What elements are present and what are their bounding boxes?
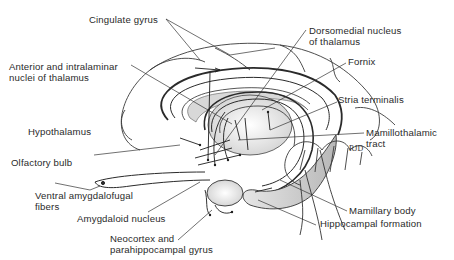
olfactory-tract <box>95 172 210 188</box>
label-dorsomedial-line1: Dorsomedial nucleus <box>309 25 401 36</box>
label-stria-terminalis: Stria terminalis <box>338 94 404 105</box>
label-ventral-amygdalofugal-line1: Ventral amygdalofugal <box>35 190 133 201</box>
label-mamillothalamic-line2: tract <box>366 138 437 149</box>
amygdala-knob <box>207 180 243 206</box>
label-neocortex-parahippocampal-gyrus: Neocortex and parahippocampal gyrus <box>110 233 213 255</box>
label-mamillothalamic-tract: Mamillothalamic tract <box>366 127 437 149</box>
label-dorsomedial-line2: of thalamus <box>309 36 401 47</box>
label-mamillothalamic-line1: Mamillothalamic <box>366 127 437 138</box>
label-fornix: Fornix <box>348 56 376 67</box>
label-hypothalamus: Hypothalamus <box>28 126 91 137</box>
label-anterior-intralaminar-line2: nuclei of thalamus <box>9 72 118 83</box>
label-hippocampal-formation: Hippocampal formation <box>320 218 422 229</box>
label-dorsomedial-nucleus-thalamus: Dorsomedial nucleus of thalamus <box>309 25 401 47</box>
label-anterior-intralaminar-nuclei: Anterior and intralaminar nuclei of thal… <box>9 61 118 83</box>
label-ventral-amygdalofugal-fibers: Ventral amygdalofugal fibers <box>35 190 133 212</box>
label-neocortex-line1: Neocortex and <box>110 233 213 244</box>
label-mamillary-body: Mamillary body <box>349 205 416 216</box>
thalamus <box>208 95 292 155</box>
label-cingulate-gyrus: Cingulate gyrus <box>89 14 158 25</box>
label-amygdaloid-nucleus: Amygdaloid nucleus <box>77 213 166 224</box>
artist-signature: RJD <box>349 144 363 153</box>
label-neocortex-line2: parahippocampal gyrus <box>110 244 213 255</box>
label-olfactory-bulb: Olfactory bulb <box>11 157 72 168</box>
label-ventral-amygdalofugal-line2: fibers <box>35 201 133 212</box>
label-anterior-intralaminar-line1: Anterior and intralaminar <box>9 61 118 72</box>
